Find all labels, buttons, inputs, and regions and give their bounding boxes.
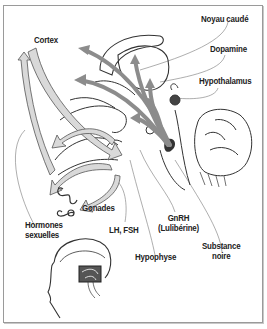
label-hypothalamus: Hypothalamus: [199, 76, 251, 86]
cortex-folds: [55, 81, 135, 175]
label-substance-line2: noire: [202, 251, 240, 261]
label-gnrh-line2: (Lulibérine): [158, 223, 199, 233]
label-hormones-line2: sexuelles: [25, 230, 63, 240]
label-hormones-sexuelles: Hormones sexuelles: [25, 220, 63, 240]
label-hypophyse: Hypophyse: [135, 252, 176, 262]
label-dopamine: Dopamine: [210, 44, 247, 54]
brainstem: [160, 110, 190, 190]
label-lh-fsh: LH, FSH: [109, 225, 139, 235]
label-substance-line1: Substance: [202, 241, 240, 251]
hypothalamus: [170, 84, 180, 105]
label-gnrh-line1: GnRH: [158, 213, 199, 223]
label-cortex: Cortex: [34, 35, 58, 45]
gonads-icon: [57, 188, 77, 216]
label-gonades: Gonades: [82, 203, 115, 213]
label-noyau-caude: Noyau caudé: [201, 14, 248, 24]
label-hormones-line1: Hormones: [25, 220, 63, 230]
label-substance-noire: Substance noire: [202, 241, 240, 261]
label-gnrh: GnRH (Lulibérine): [158, 213, 199, 233]
cerebellum: [195, 109, 252, 187]
